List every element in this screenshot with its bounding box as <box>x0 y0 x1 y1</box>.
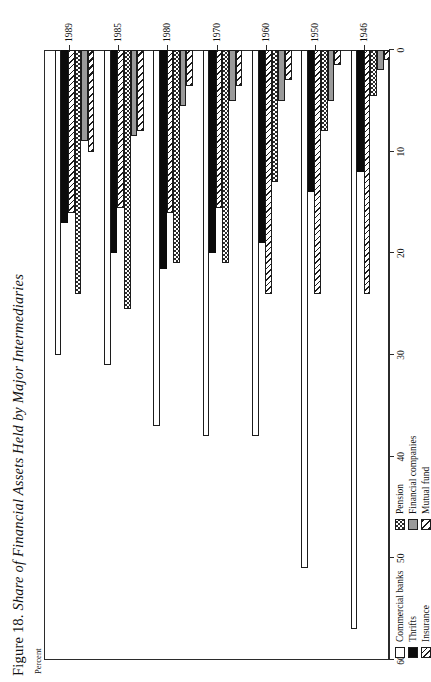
category-tick <box>118 45 119 50</box>
legend-swatch-commercial <box>395 647 405 658</box>
bar <box>301 50 308 569</box>
legend-label: Insurance <box>421 605 431 642</box>
bar <box>160 50 167 269</box>
bar-group <box>290 50 339 660</box>
bar <box>278 50 285 101</box>
legend-column-1: Commercial banksThriftsInsurance <box>394 530 431 658</box>
value-axis-line <box>389 50 390 660</box>
bar-group <box>241 50 290 660</box>
bar <box>111 50 118 253</box>
legend: Commercial banksThriftsInsurance Pension… <box>394 436 431 658</box>
bar <box>75 50 82 294</box>
category-label: 1980 <box>162 23 172 42</box>
figure-number: Figure 18. <box>10 614 26 676</box>
bar <box>384 50 391 60</box>
bar <box>186 50 193 86</box>
value-axis-label: Percent <box>33 649 43 675</box>
legend-item: Pension <box>394 436 405 530</box>
category-label: 1960 <box>261 23 271 42</box>
bar <box>265 50 272 294</box>
legend-column-2: PensionFinancial companiesMutual fund <box>394 436 431 530</box>
category-tick <box>69 45 70 50</box>
bar-group <box>340 50 389 660</box>
legend-item: Thrifts <box>407 530 418 658</box>
bar <box>285 50 292 81</box>
value-tick-label: 10 <box>396 147 406 157</box>
bar <box>88 50 95 152</box>
bar <box>259 50 266 243</box>
legend-item: Commercial banks <box>394 530 405 658</box>
bar <box>153 50 160 426</box>
bar-group <box>44 50 93 660</box>
legend-swatch-insurance <box>421 647 431 658</box>
bar <box>328 50 335 101</box>
legend-label: Pension <box>395 484 405 514</box>
bar <box>321 50 328 131</box>
bar <box>308 50 315 192</box>
bar <box>117 50 124 208</box>
value-tick-label: 30 <box>396 350 406 360</box>
bar <box>351 50 358 630</box>
bar <box>209 50 216 253</box>
bar <box>222 50 229 264</box>
category-tick <box>315 45 316 50</box>
legend-item: Financial companies <box>407 436 418 530</box>
bar <box>357 50 364 172</box>
category-tick <box>167 45 168 50</box>
legend-swatch-thrifts <box>408 647 418 658</box>
category-label: 1989 <box>64 23 74 42</box>
legend-item: Mutual fund <box>420 436 431 530</box>
bar <box>272 50 279 182</box>
bar <box>314 50 321 294</box>
bar <box>236 50 243 86</box>
bar <box>55 50 62 355</box>
value-tick <box>389 252 394 253</box>
bar <box>370 50 377 96</box>
legend-swatch-fincos <box>408 519 418 530</box>
bar <box>124 50 131 309</box>
figure-title: Figure 18. Share of Financial Assets Hel… <box>10 274 27 676</box>
bar <box>216 50 223 208</box>
bar <box>137 50 144 131</box>
bar <box>180 50 187 106</box>
value-tick <box>389 659 394 660</box>
bar <box>81 50 88 142</box>
legend-label: Thrifts <box>408 616 418 642</box>
value-tick-label: 20 <box>396 249 406 259</box>
category-tick <box>364 45 365 50</box>
category-tick <box>266 45 267 50</box>
value-tick <box>389 354 394 355</box>
legend-swatch-mutual <box>421 519 431 530</box>
legend-label: Financial companies <box>408 436 418 514</box>
legend-label: Commercial banks <box>395 571 405 643</box>
bar <box>377 50 384 70</box>
bar <box>252 50 259 436</box>
bar <box>364 50 371 294</box>
category-label: 1985 <box>113 23 123 42</box>
figure-title-text: Share of Financial Assets Held by Major … <box>10 274 26 611</box>
category-label: 1950 <box>310 23 320 42</box>
category-tick <box>217 45 218 50</box>
value-tick-label: 0 <box>396 48 406 53</box>
bar <box>68 50 75 213</box>
legend-swatch-pension <box>395 519 405 530</box>
bar-group <box>192 50 241 660</box>
category-label: 1970 <box>212 23 222 42</box>
bar <box>334 50 341 65</box>
bar <box>61 50 68 223</box>
legend-label: Mutual fund <box>421 467 431 514</box>
bar <box>131 50 138 136</box>
bar <box>203 50 210 436</box>
legend-item: Insurance <box>420 530 431 658</box>
category-label: 1946 <box>359 23 369 42</box>
value-tick <box>389 151 394 152</box>
bar <box>173 50 180 264</box>
bar <box>104 50 111 365</box>
bar <box>167 50 174 213</box>
bar-group <box>93 50 142 660</box>
bar <box>229 50 236 101</box>
bar-group <box>143 50 192 660</box>
